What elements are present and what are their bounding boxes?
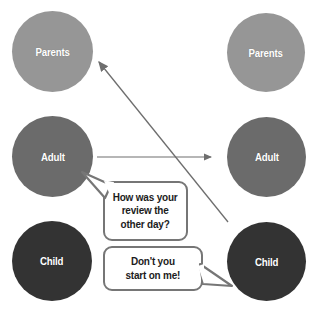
- left-child-label: Child: [40, 255, 63, 267]
- right-child-label: Child: [255, 256, 278, 268]
- right-parents-circle: Parents: [227, 13, 305, 92]
- left-parents-circle: Parents: [12, 11, 93, 92]
- left-child-circle: Child: [12, 221, 92, 301]
- reply-speech-bubble: Don't youstart on me!: [103, 246, 203, 291]
- transaction-diagram: Parents Adult Child Parents Adult Child: [0, 0, 312, 312]
- question-speech-bubble: How was yourreview theother day?: [103, 181, 188, 241]
- left-adult-label: Adult: [41, 151, 65, 163]
- left-adult-circle: Adult: [12, 116, 93, 197]
- left-parents-label: Parents: [35, 46, 69, 58]
- right-child-circle: Child: [227, 222, 306, 301]
- right-parents-label: Parents: [249, 47, 283, 59]
- right-adult-label: Adult: [255, 151, 279, 163]
- reply-bubble-text: Don't youstart on me!: [122, 255, 184, 282]
- question-bubble-text: How was yourreview theother day?: [109, 191, 181, 232]
- right-adult-circle: Adult: [227, 117, 306, 197]
